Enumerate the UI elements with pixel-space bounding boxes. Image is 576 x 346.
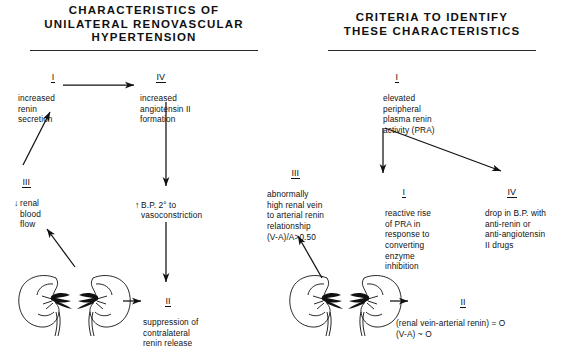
left-panel-title: CHARACTERISTICS OF UNILATERAL RENOVASCUL…: [8, 4, 280, 45]
kidney-pair-illustration-left: [12, 268, 137, 338]
node-increased-renin-secretion: I increased renin secretion: [18, 61, 88, 136]
node-increased-blood-pressure: ↑ B.P. 2° to vasoconstriction: [135, 189, 240, 231]
node-text: B.P. 2° to vasoconstriction: [141, 200, 202, 221]
roman-numeral-IV: IV: [156, 72, 230, 82]
roman-numeral-II: II: [460, 297, 574, 307]
down-arrow-glyph: ↓: [14, 198, 19, 209]
right-panel-title: CRITERIA TO IDENTIFY THESE CHARACTERISTI…: [296, 11, 568, 38]
diagram-page: CHARACTERISTICS OF UNILATERAL RENOVASCUL…: [0, 0, 576, 346]
node-decreased-renal-blood-flow: III ↓ renal blood flow: [14, 166, 84, 241]
node-text: reactive rise of PRA in response to conv…: [385, 208, 463, 272]
node-drop-in-blood-pressure: IV drop in B.P. with anti-renin or anti-…: [485, 176, 575, 261]
node-renin-difference-zero: II (renal vein-arterial renin) = O (V-A)…: [396, 286, 574, 346]
roman-numeral-III: III: [291, 168, 351, 178]
node-text: drop in B.P. with anti-renin or anti-ang…: [485, 208, 575, 250]
node-text: suppression of contralateral renin relea…: [143, 317, 243, 346]
node-text: elevated peripheral plasma renin activit…: [383, 93, 483, 135]
right-panel: CRITERIA TO IDENTIFY THESE CHARACTERISTI…: [288, 0, 576, 346]
node-text: increased angiotensin II formation: [140, 93, 230, 125]
node-elevated-peripheral-pra: I elevated peripheral plasma renin activ…: [383, 61, 483, 146]
roman-numeral-IV: IV: [507, 187, 575, 197]
node-increased-angiotensin-formation: IV increased angiotensin II formation: [140, 61, 230, 136]
node-text: (renal vein-arterial renin) = O (V-A) ~ …: [396, 318, 574, 339]
left-panel: CHARACTERISTICS OF UNILATERAL RENOVASCUL…: [0, 0, 288, 346]
node-text: increased renin secretion: [18, 93, 88, 125]
roman-numeral-III: III: [22, 177, 84, 187]
node-renal-vein-arterial-renin-ratio: III abnormally high renal vein to arteri…: [267, 157, 351, 253]
up-arrow-glyph: ↑: [135, 200, 140, 211]
roman-numeral-I: I: [402, 187, 463, 197]
roman-numeral-II: II: [165, 296, 243, 306]
node-suppression-contralateral-renin: II suppression of contralateral renin re…: [143, 285, 243, 346]
left-panel-rule: [30, 50, 258, 51]
right-panel-rule: [328, 50, 536, 51]
node-reactive-rise-of-pra: I reactive rise of PRA in response to co…: [385, 176, 463, 282]
roman-numeral-I: I: [395, 72, 483, 82]
node-text: renal blood flow: [20, 198, 41, 230]
kidney-pair-illustration-right: [283, 268, 408, 338]
roman-numeral-I: I: [18, 72, 88, 82]
node-text: abnormally high renal vein to arterial r…: [267, 189, 351, 242]
